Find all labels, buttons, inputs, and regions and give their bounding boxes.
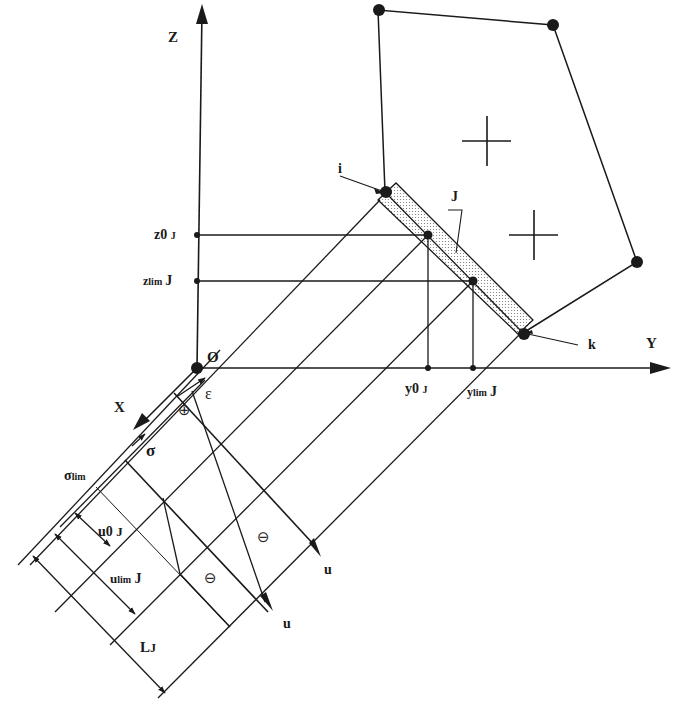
u0-dimension-label: u0 J xyxy=(98,525,123,539)
minus-sign-icon-1: ⊖ xyxy=(257,530,270,545)
z-axis-label: Z xyxy=(168,30,178,45)
section-diagram xyxy=(0,0,673,708)
ulim-dimension-label: ulim J xyxy=(110,572,141,586)
y0-tick xyxy=(425,365,431,371)
diag-line-z0 xyxy=(55,235,428,612)
diag-line-i xyxy=(30,200,380,565)
y-axis-label: Y xyxy=(646,336,657,351)
u-axis-label-1: u xyxy=(324,563,332,577)
epsilon-label: ε xyxy=(205,386,212,402)
y-axis-arrowhead xyxy=(650,362,671,374)
sigma-label: σ xyxy=(146,442,155,459)
origin-point xyxy=(191,362,203,374)
x-axis-label: X xyxy=(114,400,125,415)
diag-line-zlim xyxy=(110,281,473,645)
section-outline xyxy=(378,10,637,333)
zlim-label: zlim J xyxy=(143,274,172,288)
diag-line-k xyxy=(158,334,520,698)
z-axis-arrowhead xyxy=(196,4,208,24)
L-dimension xyxy=(33,556,165,693)
ylim-label: ylim J xyxy=(467,385,497,399)
node-z0-on-strip xyxy=(424,231,433,240)
L-dimension-label: LJ xyxy=(140,640,156,655)
node-right xyxy=(631,256,643,268)
node-top-right xyxy=(547,19,559,31)
element-strip-J xyxy=(378,183,533,334)
z0-tick xyxy=(194,232,200,238)
node-k-label: k xyxy=(588,338,596,352)
node-i xyxy=(380,186,392,198)
z-axis xyxy=(197,10,202,368)
strip-centerline xyxy=(385,192,523,333)
zlim-tick xyxy=(194,278,200,284)
sigma-lim-label: σlim xyxy=(64,469,86,483)
u-axis-label-2: u xyxy=(283,617,291,631)
element-J-label: J xyxy=(451,190,458,204)
ylim-tick xyxy=(470,365,476,371)
node-top-left xyxy=(373,4,385,16)
minus-sign-icon-2: ⊖ xyxy=(204,571,217,586)
node-zlim-on-strip xyxy=(469,277,478,286)
stress-base-line xyxy=(125,460,268,612)
origin-label: O xyxy=(207,350,219,365)
y0-label: y0 J xyxy=(405,382,428,396)
sigma-lim-line xyxy=(96,487,230,627)
node-i-label: i xyxy=(338,162,342,176)
k-pointer xyxy=(528,334,578,345)
z0-label: z0 J xyxy=(154,228,176,242)
i-pointer xyxy=(340,176,382,191)
u-arrowhead-2 xyxy=(260,592,273,611)
plus-sign-icon: ⊕ xyxy=(178,403,191,418)
node-k xyxy=(518,328,530,340)
